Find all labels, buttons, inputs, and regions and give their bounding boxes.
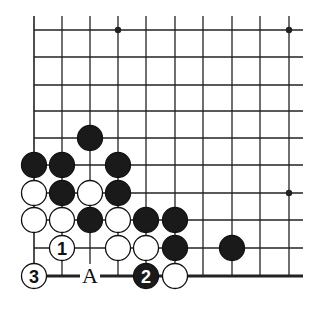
- move-number-label: 3: [29, 267, 39, 287]
- white-stone: [22, 208, 47, 233]
- black-stone: 2: [134, 264, 159, 289]
- black-stone: [106, 181, 131, 206]
- black-stone: [220, 236, 245, 261]
- black-stone: [163, 208, 188, 233]
- stones: 132: [22, 126, 245, 289]
- white-stone: 3: [22, 264, 47, 289]
- black-stone: [78, 208, 103, 233]
- star-point-icon: [286, 27, 292, 33]
- black-stone: [50, 153, 75, 178]
- point-label-a: A: [82, 263, 98, 288]
- go-board: 132 A: [0, 0, 323, 310]
- white-stone: [163, 264, 188, 289]
- white-stone: 1: [50, 236, 75, 261]
- white-stone: [50, 208, 75, 233]
- black-stone: [106, 153, 131, 178]
- move-number-label: 2: [141, 267, 151, 287]
- star-point-icon: [286, 190, 292, 196]
- white-stone: [78, 181, 103, 206]
- white-stone: [22, 181, 47, 206]
- white-stone: [134, 236, 159, 261]
- black-stone: [163, 236, 188, 261]
- move-number-label: 1: [57, 239, 67, 259]
- black-stone: [134, 208, 159, 233]
- white-stone: [106, 236, 131, 261]
- point-labels: A: [80, 263, 100, 288]
- star-point-icon: [115, 27, 121, 33]
- white-stone: [106, 208, 131, 233]
- black-stone: [50, 181, 75, 206]
- black-stone: [78, 126, 103, 151]
- black-stone: [22, 153, 47, 178]
